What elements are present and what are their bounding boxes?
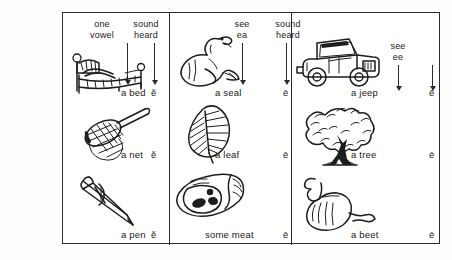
row-vowel-symbol: ē (283, 229, 288, 240)
arrow-to-vowel (283, 43, 290, 85)
row-vowel-symbol: ĕ (151, 149, 156, 160)
row-vowel-symbol: ē (429, 87, 434, 98)
row-label: a tree (351, 149, 377, 160)
row-vowel-symbol: ĕ (151, 229, 156, 240)
row-label: a bed (121, 87, 146, 98)
row-vowel-symbol: ē (283, 87, 288, 98)
column-long-e-ee: see ee (291, 13, 441, 245)
row-vowel-symbol: ē (429, 229, 434, 240)
column-long-e-ea: see ea sound heard (169, 13, 291, 245)
beet-icon (301, 173, 381, 233)
vowel-sound-worksheet: one vowel sound heard (0, 0, 452, 260)
jeep-icon (295, 33, 387, 89)
pen-icon (71, 175, 155, 229)
row-label: a net (121, 149, 143, 160)
column-header-sound: sound heard (119, 19, 173, 41)
seal-icon (175, 29, 243, 91)
meat-icon (173, 173, 257, 225)
row-label: a beet (351, 229, 379, 240)
row-vowel-symbol: ĕ (151, 87, 156, 98)
arrow-to-word (395, 65, 402, 91)
worksheet-frame: one vowel sound heard (62, 12, 440, 244)
column-short-e: one vowel sound heard (63, 13, 169, 245)
row-label: a jeep (351, 87, 378, 98)
row-label: some meat (205, 229, 254, 240)
row-label: a pen (121, 229, 146, 240)
row-label: a leaf (215, 149, 239, 160)
row-vowel-symbol: ē (429, 149, 434, 160)
header-line-2: heard (119, 30, 173, 41)
row-vowel-symbol: ē (283, 149, 288, 160)
header-line-1: sound (119, 19, 173, 30)
row-label: a seal (215, 87, 242, 98)
